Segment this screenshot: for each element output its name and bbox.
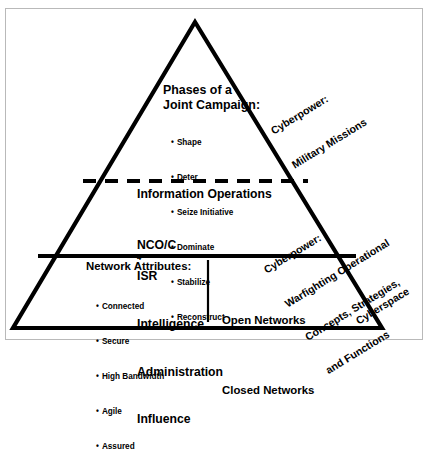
top-tier-heading-line2: Joint Campaign: [163,98,260,112]
top-tier-heading-line1: Phases of a [163,83,232,97]
list-item: Secure [96,336,164,348]
list-item: Shape [171,137,233,149]
side-label-line: Cyberpower: [269,82,349,138]
side-label-line: Cyberspace [354,285,412,328]
list-item: High Bandwidth [96,371,164,383]
ncoc4isr-prefix: NCO/C [137,238,223,254]
top-tier-heading: Phases of aJoint Campaign: [163,83,260,113]
list-item: Connected [96,301,164,313]
list-item: Assured [96,441,164,453]
closed-networks-label: Closed Networks [222,379,314,402]
middle-tier-heading: Information Operations [137,188,272,201]
bottom-tier-heading: Network Attributes: [86,261,191,273]
list-item: Deter [171,172,233,184]
side-label-line: Military Missions [289,115,369,171]
bottom-tier-bullet-list: Connected Secure High Bandwidth Agile As… [96,278,164,453]
list-item: Agile [96,406,164,418]
